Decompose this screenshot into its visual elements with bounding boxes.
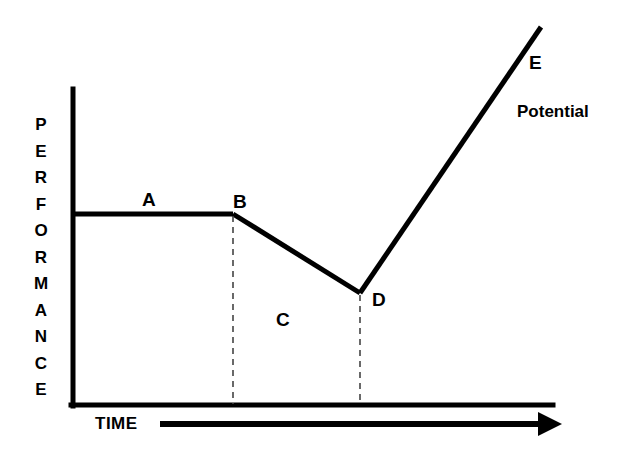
y-axis-letter-4: O xyxy=(34,218,47,245)
x-axis-label: TIME xyxy=(95,415,138,432)
y-axis-letter-2: R xyxy=(35,165,47,192)
annotation-potential: Potential xyxy=(517,103,589,120)
y-axis-letter-9: C xyxy=(35,351,47,378)
y-axis-letter-8: N xyxy=(35,324,47,351)
y-axis-letter-5: R xyxy=(35,245,47,272)
label-region-c: C xyxy=(276,310,290,329)
y-axis-letter-10: E xyxy=(35,377,46,404)
y-axis-letter-1: E xyxy=(35,139,46,166)
chart-figure: P E R F O R M A N C E TIME A B C D E Pot… xyxy=(0,0,632,468)
y-axis-label: P E R F O R M A N C E xyxy=(30,112,52,404)
y-axis-letter-7: A xyxy=(35,298,47,325)
label-point-b: B xyxy=(233,192,247,211)
curve-segment-e xyxy=(360,27,541,293)
y-axis-letter-6: M xyxy=(34,271,48,298)
y-axis-letter-0: P xyxy=(35,112,46,139)
time-axis-arrowhead xyxy=(538,412,562,436)
label-point-e: E xyxy=(529,53,542,72)
y-axis-letter-3: F xyxy=(36,192,46,219)
label-point-a: A xyxy=(142,190,156,209)
label-point-d: D xyxy=(372,290,386,309)
curve-segment-c xyxy=(233,214,360,293)
